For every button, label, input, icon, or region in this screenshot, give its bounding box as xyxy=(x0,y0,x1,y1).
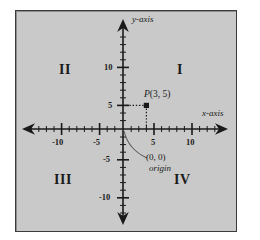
quadrant-2-label: II xyxy=(59,63,71,77)
x-tick-label-pos5: 5 xyxy=(151,138,155,147)
y-axis-label: y-axis xyxy=(132,15,154,24)
origin-word-label: origin xyxy=(149,164,171,173)
quadrant-1-label: I xyxy=(177,63,183,77)
y-tick-label-pos5: 5 xyxy=(108,101,112,110)
y-tick-label-neg10: -10 xyxy=(99,193,110,202)
quadrant-3-label: III xyxy=(54,173,72,187)
point-p-label: P(3, 5) xyxy=(144,90,170,100)
quadrant-4-label: IV xyxy=(174,173,191,187)
x-tick-label-neg5: -5 xyxy=(93,138,100,147)
origin-coordinates-label: (0, 0) xyxy=(146,153,166,162)
y-tick-label-pos10: 10 xyxy=(104,63,113,72)
plot-frame: y-axis x-axis -10 -5 5 10 10 5 -5 -10 I … xyxy=(15,10,237,232)
point-p-coordinates: (3, 5) xyxy=(150,89,171,99)
x-tick-label-pos10: 10 xyxy=(186,138,195,147)
x-tick-label-neg10: -10 xyxy=(52,138,63,147)
x-axis-label: x-axis xyxy=(202,109,224,118)
axes-svg xyxy=(16,11,236,231)
coordinate-plane-figure: y-axis x-axis -10 -5 5 10 10 5 -5 -10 I … xyxy=(0,0,260,240)
y-tick-label-neg5: -5 xyxy=(103,155,110,164)
origin-leader-line xyxy=(124,131,147,158)
point-p-marker xyxy=(144,103,149,108)
